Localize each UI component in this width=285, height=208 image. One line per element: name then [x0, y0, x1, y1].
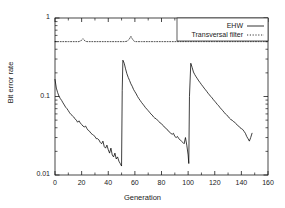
- x-tick-label: 140: [229, 179, 253, 186]
- series-line-ehw: [55, 60, 252, 166]
- legend-entry-transversal-filter: Transversal filter: [150, 31, 243, 38]
- y-tick-label: 1: [20, 13, 50, 20]
- x-tick-label: 100: [176, 179, 200, 186]
- x-tick-label: 20: [70, 179, 94, 186]
- x-tick-label: 40: [96, 179, 120, 186]
- x-tick-label: 60: [123, 179, 147, 186]
- legend-entry-ehw: EHW: [150, 22, 243, 29]
- chart-figure: Bit error rate Generation 1 0.1 0.01 0 2…: [0, 0, 285, 208]
- y-tick-label: 0.1: [20, 92, 50, 99]
- x-tick-label: 120: [203, 179, 227, 186]
- x-tick-label: 160: [256, 179, 280, 186]
- data-series-group: [55, 36, 268, 166]
- y-axis-label: Bit error rate: [6, 51, 15, 115]
- y-tick-label: 0.01: [20, 170, 50, 177]
- x-axis-label: Generation: [0, 193, 285, 202]
- x-tick-label: 80: [150, 179, 174, 186]
- x-tick-label: 0: [43, 179, 67, 186]
